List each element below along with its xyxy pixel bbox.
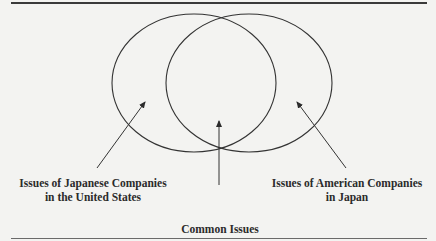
right-set-circle — [166, 14, 332, 152]
left-arrow — [97, 102, 145, 168]
bottom-rule — [11, 238, 427, 239]
right-set-label-line-2: in Japan — [258, 190, 436, 204]
left-set-label: Issues of Japanese Companies in the Unit… — [8, 176, 178, 204]
right-set-label: Issues of American Companies in Japan — [258, 176, 436, 204]
venn-diagram — [0, 0, 436, 241]
intersection-label: Common Issues — [140, 222, 300, 236]
left-set-label-line-1: Issues of Japanese Companies — [8, 176, 178, 190]
right-set-label-line-1: Issues of American Companies — [258, 176, 436, 190]
intersection-label-text: Common Issues — [140, 222, 300, 236]
left-set-circle — [112, 14, 276, 152]
left-set-label-line-2: in the United States — [8, 190, 178, 204]
